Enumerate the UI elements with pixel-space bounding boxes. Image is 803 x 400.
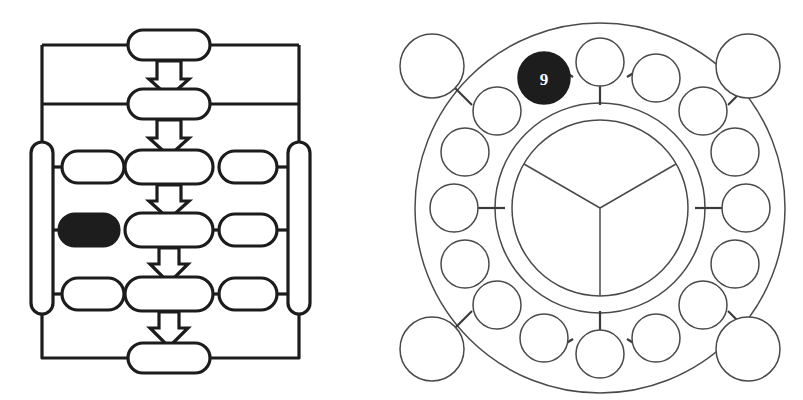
rail-left[interactable]	[31, 142, 53, 314]
ring-node-12[interactable]	[441, 240, 489, 288]
ring-node-6[interactable]	[711, 240, 759, 288]
ring-node-13[interactable]	[430, 184, 478, 232]
hub-divider-3	[600, 164, 676, 208]
corner-node-top-left[interactable]	[400, 34, 464, 98]
ring-node-1[interactable]	[576, 38, 624, 86]
radial-ring-diagram: 9	[380, 0, 803, 400]
right-branch-node-2[interactable]	[219, 214, 277, 246]
ladder-flow-diagram	[0, 0, 380, 400]
corner-node-bottom-left[interactable]	[400, 317, 464, 381]
rail-right[interactable]	[288, 142, 310, 314]
ring-node-3[interactable]	[679, 87, 727, 135]
right-branch-node-1[interactable]	[219, 151, 277, 183]
left-branch-node-3[interactable]	[62, 278, 124, 310]
corner-connector-top-left	[455, 88, 472, 105]
ring-node-11[interactable]	[473, 281, 521, 329]
ring-node-10[interactable]	[520, 314, 568, 362]
ring-node-15[interactable]	[473, 87, 521, 135]
figure-root: 9	[0, 0, 803, 400]
left-diagram-panel	[0, 0, 380, 400]
left-branch-node-1[interactable]	[62, 151, 124, 183]
corner-node-top-right[interactable]	[716, 34, 780, 98]
ring-node-4[interactable]	[711, 128, 759, 176]
bus-bottom-right-segment	[210, 311, 299, 358]
left-branch-nodes	[59, 151, 124, 310]
ring-node-2[interactable]	[632, 54, 680, 102]
corner-connector-bottom-left	[455, 311, 472, 328]
spine-node-2[interactable]	[128, 89, 210, 119]
spine-node-6[interactable]	[128, 343, 210, 373]
bus-bottom-left-segment	[42, 311, 128, 358]
ring-node-16-label: 9	[540, 70, 549, 89]
left-branch-node-2-highlighted[interactable]	[59, 214, 119, 246]
spine-node-3[interactable]	[125, 150, 213, 184]
hub-divider-2	[524, 164, 600, 208]
spine-node-1[interactable]	[128, 30, 210, 60]
ring-node-5[interactable]	[722, 184, 770, 232]
spine-node-4[interactable]	[125, 213, 213, 247]
corner-node-bottom-right[interactable]	[716, 317, 780, 381]
right-branch-nodes	[219, 151, 277, 310]
ring-node-14[interactable]	[441, 128, 489, 176]
right-branch-node-3[interactable]	[219, 278, 277, 310]
spine-node-5[interactable]	[125, 277, 213, 311]
hub-sectors	[512, 120, 688, 296]
ring-node-7[interactable]	[679, 281, 727, 329]
right-diagram-panel: 9	[380, 0, 803, 400]
ring-node-9[interactable]	[576, 330, 624, 378]
ring-node-8[interactable]	[632, 314, 680, 362]
